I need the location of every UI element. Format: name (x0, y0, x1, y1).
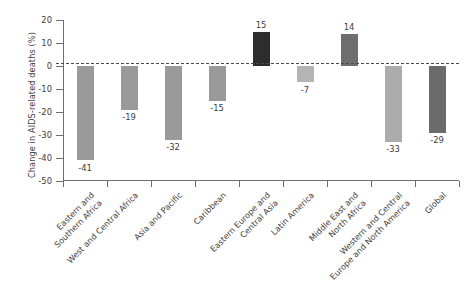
bar (253, 32, 270, 67)
x-axis-tick (459, 181, 460, 187)
x-axis-tick (151, 181, 152, 187)
bar (429, 66, 446, 133)
x-axis-tick (283, 181, 284, 187)
y-axis-tick-label: 10 (2, 38, 52, 48)
y-axis-tick-label: 0 (2, 61, 52, 71)
y-axis-line (63, 20, 64, 181)
bar (77, 66, 94, 160)
y-axis-tick (56, 158, 63, 159)
y-axis-tick-label: -40 (2, 153, 52, 163)
x-axis-line (63, 180, 459, 181)
x-axis-tick (415, 181, 416, 187)
y-axis-tick-label: -30 (2, 130, 52, 140)
bar-value-label: 14 (327, 22, 371, 32)
x-axis-tick (371, 181, 372, 187)
y-axis-tick (56, 20, 63, 21)
x-axis-tick (239, 181, 240, 187)
x-axis-tick (327, 181, 328, 187)
bar (165, 66, 182, 140)
y-axis-tick (56, 135, 63, 136)
y-axis-tick (56, 112, 63, 113)
bar-value-label: 15 (239, 20, 283, 30)
bar (385, 66, 402, 142)
aids-deaths-bar-chart: Change in AIDS-related deaths (%) 20100-… (0, 0, 466, 293)
bar-value-label: -32 (151, 142, 195, 152)
x-axis-tick (107, 181, 108, 187)
y-axis-tick-label: -20 (2, 107, 52, 117)
bar (121, 66, 138, 110)
y-axis-tick-label: -10 (2, 84, 52, 94)
bar (297, 66, 314, 82)
bar-value-label: -7 (283, 85, 327, 95)
y-axis-tick (56, 66, 63, 67)
bar-value-label: -41 (63, 163, 107, 173)
bar (209, 66, 226, 101)
bar-value-label: -19 (107, 112, 151, 122)
y-axis-tick (56, 43, 63, 44)
bar-value-label: -33 (371, 144, 415, 154)
x-axis-tick (195, 181, 196, 187)
bar-value-label: -15 (195, 103, 239, 113)
x-axis-tick (63, 181, 64, 187)
y-axis-tick-label: -50 (2, 176, 52, 186)
bar (341, 34, 358, 66)
bar-value-label: -29 (415, 135, 459, 145)
y-axis-tick (56, 89, 63, 90)
y-axis-tick (56, 181, 63, 182)
y-axis-tick-label: 20 (2, 15, 52, 25)
zero-reference-line (56, 63, 459, 64)
